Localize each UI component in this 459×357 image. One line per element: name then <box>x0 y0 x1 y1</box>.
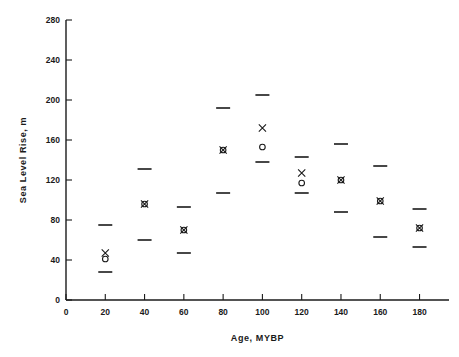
x-tick-label: 80 <box>218 307 228 317</box>
y-tick-label: 160 <box>46 135 60 145</box>
y-tick-label: 80 <box>51 215 61 225</box>
data-point-o <box>102 256 108 262</box>
x-tick-label: 40 <box>140 307 150 317</box>
scatter-plot: 0408012016020024028002040608010012014016… <box>0 0 459 357</box>
x-axis-title: Age, MYBP <box>231 333 284 343</box>
data-point-x <box>102 249 109 256</box>
x-tick-label: 160 <box>373 307 387 317</box>
y-tick-label: 200 <box>46 95 60 105</box>
x-tick-label: 60 <box>179 307 189 317</box>
x-tick-label: 100 <box>255 307 269 317</box>
chart-figure: 0408012016020024028002040608010012014016… <box>0 0 459 357</box>
y-tick-label: 120 <box>46 175 60 185</box>
data-point-o <box>299 180 305 186</box>
data-point-o <box>260 144 266 150</box>
y-tick-label: 0 <box>55 295 60 305</box>
x-tick-label: 140 <box>334 307 348 317</box>
x-tick-label: 120 <box>295 307 309 317</box>
y-axis-title: Sea Level Rise, m <box>18 117 28 203</box>
y-tick-label: 40 <box>51 255 61 265</box>
y-tick-label: 240 <box>46 55 60 65</box>
data-point-x <box>259 124 266 131</box>
x-tick-label: 20 <box>101 307 111 317</box>
data-point-x <box>298 169 305 176</box>
x-tick-label: 180 <box>412 307 426 317</box>
x-tick-label: 0 <box>64 307 69 317</box>
y-tick-label: 280 <box>46 15 60 25</box>
